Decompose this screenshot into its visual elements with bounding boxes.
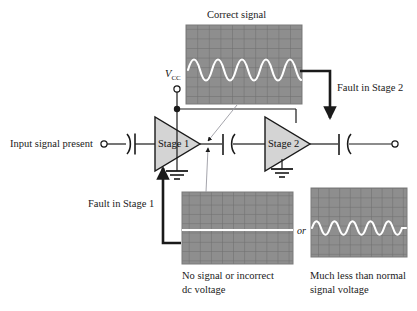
- no-signal-caption-line1: No signal or incorrect: [182, 270, 274, 282]
- input-terminal: [101, 141, 107, 147]
- vcc-label-sub: CC: [171, 74, 180, 82]
- fault-stage2-label: Fault in Stage 2: [337, 82, 403, 94]
- no-signal-scope: [182, 192, 293, 264]
- input-coupling-capacitor: [127, 134, 135, 155]
- low-signal-scope: [311, 188, 407, 257]
- stage-2-label: Stage 2: [268, 138, 299, 149]
- input-signal-label: Input signal present: [10, 138, 93, 150]
- correct-signal-caption: Correct signal: [207, 9, 266, 21]
- figure-canvas: [0, 0, 417, 311]
- figure-troubleshooting-amplifier-stages: Correct signal Input signal present VCC …: [0, 0, 417, 311]
- fault-stage2-arrow: [300, 71, 330, 118]
- no-signal-caption-line2: dc voltage: [182, 284, 225, 296]
- fault-stage1-label: Fault in Stage 1: [88, 198, 154, 210]
- pointer-no-signal: [206, 148, 208, 192]
- correct-signal-scope: [186, 25, 302, 104]
- vcc-label: VCC: [165, 68, 181, 82]
- stage-1-label: Stage 1: [158, 138, 189, 149]
- low-signal-caption-line1: Much less than normal: [310, 270, 406, 282]
- vcc-terminal: [174, 86, 180, 92]
- or-label: or: [297, 225, 306, 236]
- low-signal-caption-line2: signal voltage: [310, 284, 369, 296]
- output-terminal: [392, 141, 398, 147]
